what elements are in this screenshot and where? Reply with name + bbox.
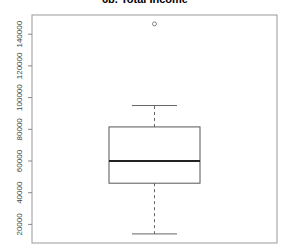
y-tick-label: 80000 bbox=[15, 118, 24, 141]
y-tick-label: 40000 bbox=[15, 181, 24, 204]
y-tick-label: 20000 bbox=[15, 213, 24, 236]
y-tick-label: 120000 bbox=[15, 52, 24, 79]
outlier-point bbox=[153, 22, 157, 26]
y-tick-label: 140000 bbox=[15, 20, 24, 47]
y-tick-label: 100000 bbox=[15, 84, 24, 111]
y-tick-label: 60000 bbox=[15, 149, 24, 172]
boxplot-chart: 20000400006000080000100000120000140000 bbox=[0, 0, 290, 249]
box bbox=[109, 127, 200, 183]
